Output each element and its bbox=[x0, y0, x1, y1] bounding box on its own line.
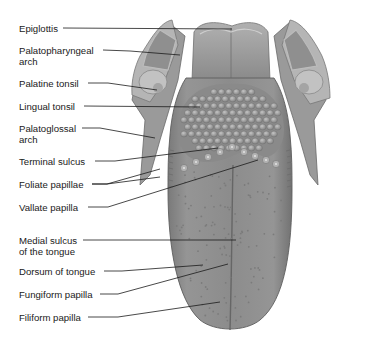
label-fungiform-papilla: Fungiform papilla bbox=[19, 289, 93, 300]
label-epiglottis: Epiglottis bbox=[19, 23, 58, 34]
epiglottis bbox=[192, 23, 270, 80]
label-palatoglossal-arch: Palatoglossalarch bbox=[19, 123, 76, 145]
label-palatine-tonsil: Palatine tonsil bbox=[19, 78, 79, 89]
label-foliate-papillae: Foliate papillae bbox=[19, 179, 84, 190]
label-lingual-tonsil: Lingual tonsil bbox=[19, 101, 75, 112]
label-palatopharyngeal-arch: Palatopharyngealarch bbox=[19, 45, 94, 67]
label-dorsum-of-tongue: Dorsum of tongue bbox=[19, 266, 95, 277]
label-vallate-papilla: Vallate papilla bbox=[19, 202, 78, 213]
label-terminal-sulcus: Terminal sulcus bbox=[19, 156, 85, 167]
label-medial-sulcus: Medial sulcusof the tongue bbox=[19, 235, 77, 257]
label-filiform-papilla: Filiform papilla bbox=[19, 312, 81, 323]
